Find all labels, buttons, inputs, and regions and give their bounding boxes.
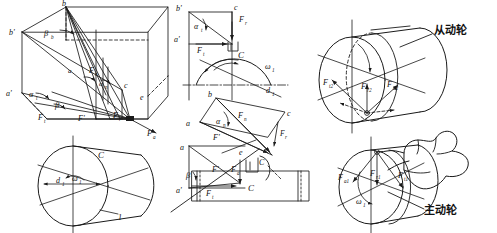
- label-proj-d1: d 1: [266, 86, 275, 97]
- svg-text:ω: ω: [72, 174, 78, 183]
- svg-text:n: n: [244, 116, 247, 122]
- svg-text:F: F: [146, 129, 152, 138]
- svg-text:F: F: [37, 113, 43, 122]
- label-cylinder-omega1: ω 1: [72, 174, 82, 185]
- svg-text:ω: ω: [356, 197, 362, 206]
- svg-text:n: n: [223, 122, 226, 128]
- box-3d-wireframe: [22, 7, 168, 119]
- svg-text:F: F: [386, 80, 392, 89]
- figure-canvas: b b' a' a c e β b α t α n β F n F t F' F…: [0, 0, 497, 233]
- label-box-beta-b: β b: [43, 28, 54, 40]
- label-cylinder-center-C: C: [98, 150, 105, 160]
- label-box-Fr: F r: [112, 111, 122, 122]
- label-proj-omega1-top: ω 1: [265, 62, 275, 73]
- svg-text:a: a: [237, 170, 240, 176]
- diagram-svg: b b' a' a c e β b α t α n β F n F t F' F…: [0, 0, 497, 233]
- label-driving-omega1: ω 1: [356, 197, 366, 208]
- svg-text:t: t: [201, 27, 203, 33]
- svg-text:F: F: [88, 66, 94, 75]
- label-proj-Ft-top: F t: [196, 46, 205, 57]
- label-proj-Fr-mid: F r: [279, 129, 288, 140]
- svg-text:n: n: [105, 84, 108, 90]
- svg-text:t2: t2: [329, 83, 333, 89]
- label-proj-b-mid: b: [208, 90, 212, 99]
- svg-text:1: 1: [363, 202, 366, 208]
- svg-text:F: F: [369, 169, 375, 178]
- label-proj-e: e: [239, 148, 243, 157]
- svg-text:1: 1: [272, 67, 275, 73]
- svg-text:t: t: [36, 95, 38, 101]
- label-proj-C-top: C: [238, 50, 245, 60]
- label-box-Ft: F t: [37, 113, 46, 124]
- svg-text:t: t: [203, 51, 205, 57]
- label-proj-b-prime: b': [176, 4, 182, 13]
- svg-text:t1: t1: [404, 176, 408, 182]
- svg-text:1: 1: [62, 181, 65, 187]
- label-driven-Fr2: F r2: [360, 82, 372, 93]
- svg-text:1: 1: [79, 179, 82, 185]
- label-proj-Fr-top: F r: [238, 15, 248, 26]
- label-proj-a-mid: a: [186, 119, 190, 128]
- svg-text:r1: r1: [376, 174, 381, 180]
- projection-top-view: [183, 12, 288, 100]
- label-box-a: a: [68, 67, 72, 75]
- driven-wheel-drawing: [318, 20, 447, 133]
- svg-text:α: α: [29, 90, 34, 99]
- svg-text:β: β: [43, 28, 49, 38]
- label-proj-c-top: c: [234, 3, 238, 12]
- label-proj-Ft-front: F t: [205, 189, 214, 200]
- svg-text:α: α: [99, 80, 103, 88]
- svg-text:a: a: [153, 134, 156, 140]
- svg-text:F: F: [196, 46, 202, 55]
- label-proj-c-mid: c: [287, 109, 291, 118]
- label-proj-a-front: a: [180, 143, 184, 152]
- svg-text:ω: ω: [265, 62, 271, 71]
- svg-text:F: F: [205, 189, 211, 198]
- driving-wheel-drawing: [338, 137, 438, 233]
- box-angle-arcs: [36, 30, 110, 109]
- label-proj-a-prime: a': [174, 35, 180, 44]
- label-box-b: b: [62, 0, 66, 8]
- svg-text:r: r: [245, 20, 248, 26]
- svg-text:F: F: [337, 173, 343, 182]
- svg-text:α: α: [194, 22, 199, 31]
- label-proj-Fprime-mid: F': [212, 133, 220, 142]
- label-driven-Ft2: F t2: [322, 78, 333, 89]
- label-cylinder-d1: d 1: [56, 176, 65, 187]
- label-box-beta: β: [54, 100, 60, 110]
- svg-text:b: b: [51, 34, 54, 40]
- label-proj-C-small: C: [259, 158, 265, 167]
- label-driving-wheel-cjk: 主动轮: [424, 203, 457, 217]
- svg-text:F: F: [322, 78, 328, 87]
- svg-text:F: F: [238, 15, 244, 24]
- svg-text:a2: a2: [393, 85, 399, 91]
- svg-text:F: F: [112, 111, 118, 120]
- svg-text:F: F: [237, 111, 243, 120]
- gear-cylinder-1: [38, 116, 156, 233]
- svg-text:1: 1: [272, 91, 275, 97]
- label-gear-number-1: 1: [118, 213, 122, 222]
- label-proj-C-front: C: [248, 183, 255, 193]
- svg-text:r2: r2: [367, 87, 372, 93]
- label-box-c: c: [124, 81, 128, 90]
- svg-text:a1: a1: [344, 178, 350, 184]
- label-proj-Fa-front: F a: [230, 165, 240, 176]
- label-box-a-prime: a': [6, 89, 12, 98]
- svg-text:n: n: [95, 71, 98, 77]
- label-box-b-prime: b': [9, 28, 15, 37]
- svg-text:F: F: [230, 165, 236, 174]
- svg-text:d: d: [266, 86, 271, 95]
- label-box-Fprime: F': [77, 114, 85, 123]
- label-box-Fa: F a: [146, 129, 156, 140]
- svg-text:F: F: [397, 171, 403, 180]
- svg-text:F: F: [360, 82, 366, 91]
- label-driven-wheel-cjk: 从动轮: [434, 23, 467, 37]
- label-proj-Fprime-front: F': [211, 165, 219, 174]
- label-proj-alpha-t: α t: [194, 22, 203, 33]
- svg-text:r: r: [285, 134, 288, 140]
- projection-mid-view: [200, 98, 285, 155]
- svg-text:t: t: [212, 194, 214, 200]
- svg-text:t: t: [44, 118, 46, 124]
- label-proj-a-prime-front: a': [176, 186, 182, 195]
- svg-text:α: α: [216, 117, 221, 126]
